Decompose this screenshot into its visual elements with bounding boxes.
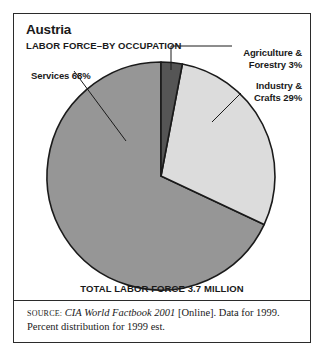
source-divider	[14, 300, 310, 301]
figure-frame: Austria LABOR FORCE–BY OCCUPATION Servic…	[13, 13, 311, 343]
slice-label-services-text: Services 68%	[31, 70, 91, 81]
slice-label-agriculture-line2: Forestry 3%	[243, 59, 302, 71]
slice-label-industry-line1: Industry &	[254, 80, 302, 92]
slice-label-agriculture: Agriculture & Forestry 3%	[243, 47, 302, 70]
slice-label-industry-line2: Crafts 29%	[254, 92, 302, 104]
total-labor-force-caption: TOTAL LABOR FORCE 3.7 MILLION	[14, 283, 310, 294]
source-label: SOURCE:	[27, 309, 62, 318]
slice-label-industry: Industry & Crafts 29%	[254, 80, 302, 103]
source-title: CIA World Factbook 2001	[65, 307, 176, 318]
source-note: SOURCE: CIA World Factbook 2001 [Online]…	[27, 306, 300, 333]
slice-label-services: Services 68%	[31, 70, 91, 82]
slice-label-agriculture-line1: Agriculture &	[243, 47, 302, 59]
